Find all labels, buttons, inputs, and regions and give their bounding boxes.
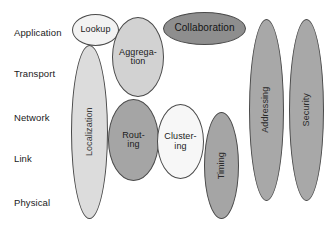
ellipse-localization[interactable]: Localization xyxy=(71,45,108,219)
ellipse-label-routing: Rout- ing xyxy=(122,131,145,150)
ellipse-collaboration[interactable]: Collaboration xyxy=(163,12,246,45)
ellipse-label-lookup: Lookup xyxy=(80,25,110,34)
protocol-stack-diagram: ApplicationTransportNetworkLinkPhysical … xyxy=(0,0,331,231)
ellipse-security[interactable]: Security xyxy=(289,19,324,201)
ellipse-label-aggregation: Aggrega- tion xyxy=(119,48,157,67)
ellipse-label-addressing: Addressing xyxy=(262,87,271,133)
ellipse-label-localization: Localization xyxy=(85,108,94,157)
ellipse-timing[interactable]: Timing xyxy=(204,112,239,219)
layer-label-link: Link xyxy=(14,154,32,164)
ellipse-label-timing: Timing xyxy=(217,152,226,179)
ellipse-clustering[interactable]: Cluster- ing xyxy=(157,104,204,179)
ellipse-lookup[interactable]: Lookup xyxy=(72,14,119,46)
ellipse-label-collaboration: Collaboration xyxy=(174,23,234,34)
ellipse-aggregation[interactable]: Aggrega- tion xyxy=(112,17,164,97)
ellipse-addressing[interactable]: Addressing xyxy=(249,19,284,201)
ellipse-routing[interactable]: Rout- ing xyxy=(108,99,159,181)
layer-label-application: Application xyxy=(14,28,62,38)
ellipse-label-security: Security xyxy=(302,93,311,126)
ellipse-label-clustering: Cluster- ing xyxy=(164,132,196,151)
layer-label-physical: Physical xyxy=(14,198,50,208)
layer-label-transport: Transport xyxy=(14,69,55,79)
layer-label-network: Network xyxy=(14,113,50,123)
